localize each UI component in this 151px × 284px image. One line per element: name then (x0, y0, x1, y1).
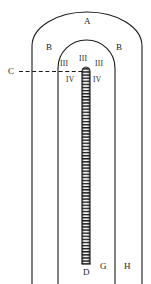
label-iii-left: III (60, 60, 68, 68)
core-tube-shading (82, 67, 90, 264)
label-h: H (124, 262, 131, 271)
label-b-left: B (46, 43, 52, 52)
label-b-right: B (116, 43, 122, 52)
label-a: A (84, 17, 91, 26)
label-iii-right: III (95, 60, 103, 68)
label-d: D (83, 268, 90, 277)
figure-diagram: A B B C III III III IV IV D G H (0, 0, 151, 284)
label-iii-center: III (79, 55, 87, 63)
label-iv-left: IV (66, 76, 74, 84)
label-c: C (8, 67, 14, 76)
core-tube (81, 67, 90, 264)
label-iv-right: IV (93, 76, 101, 84)
diagram-canvas (0, 0, 151, 284)
label-g: G (100, 262, 107, 271)
